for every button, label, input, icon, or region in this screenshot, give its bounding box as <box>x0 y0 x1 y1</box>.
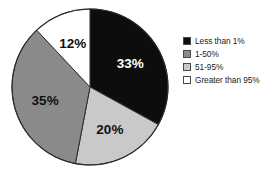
pie-slice-data-label: 35% <box>31 93 58 108</box>
pie-svg: 33%20%35%12% <box>10 6 172 172</box>
pie-slice-data-label: 20% <box>96 122 123 137</box>
legend-item: 1-50% <box>183 48 271 61</box>
legend-swatch-icon <box>183 50 191 58</box>
legend-swatch-icon <box>183 37 191 45</box>
legend: Less than 1%1-50%51-95%Greater than 95% <box>183 35 271 87</box>
legend-item: Greater than 95% <box>183 74 271 87</box>
legend-swatch-icon <box>183 76 191 84</box>
legend-item-label: Less than 1% <box>195 36 245 46</box>
legend-swatch-icon <box>183 63 191 71</box>
pie-chart-area: 33%20%35%12% <box>10 6 172 172</box>
legend-item-label: 51-95% <box>195 62 223 72</box>
pie-slice-group <box>12 9 168 165</box>
legend-item-label: Greater than 95% <box>195 75 260 85</box>
legend-item: 51-95% <box>183 61 271 74</box>
pie-slice-data-label: 33% <box>117 56 144 71</box>
legend-item: Less than 1% <box>183 35 271 48</box>
pie-chart-figure: 33%20%35%12% Less than 1%1-50%51-95%Grea… <box>0 0 273 178</box>
pie-slice-data-label: 12% <box>59 36 86 51</box>
legend-item-label: 1-50% <box>195 49 219 59</box>
